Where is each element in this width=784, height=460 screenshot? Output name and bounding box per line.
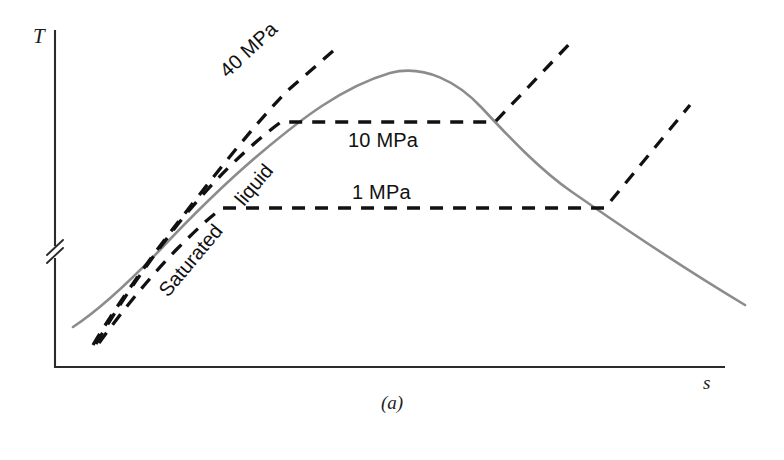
ts-diagram-canvas [0, 0, 784, 460]
entropy-axis-label: s [703, 373, 710, 392]
ts-diagram-figure: T s 40 MPa 10 MPa 1 MPa Saturated liquid… [0, 0, 784, 460]
temperature-axis-label: T [33, 26, 45, 47]
figure-caption: (a) [0, 393, 784, 412]
isobar-label-10mpa: 10 MPa [348, 130, 418, 150]
isobar-label-1mpa: 1 MPa [352, 182, 411, 202]
